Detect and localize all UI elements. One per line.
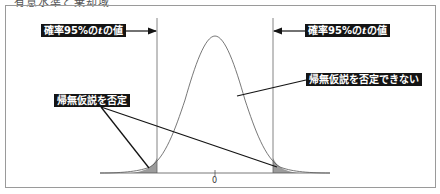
not-reject-leader <box>237 80 306 96</box>
left-t-value-label: 確率95%のtの値 <box>41 24 126 37</box>
bell-curve <box>100 36 330 173</box>
right-t-value-label: 確率95%のtの値 <box>305 24 390 37</box>
reject-leader-left <box>101 107 149 168</box>
cannot-reject-null-hypothesis-label: 帰無仮説を否定できない <box>306 73 422 86</box>
reject-null-hypothesis-label: 帰無仮説を否定 <box>54 94 130 107</box>
zero-label: 0 <box>212 176 217 185</box>
